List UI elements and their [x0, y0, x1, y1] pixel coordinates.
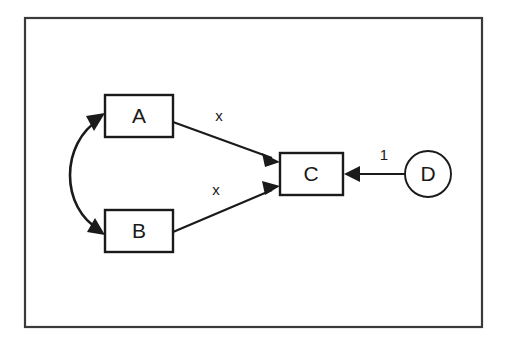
edge-a-b-arrowhead-bottom [87, 218, 105, 235]
edge-d-to-c [344, 166, 405, 182]
node-a[interactable]: A [105, 95, 173, 137]
edge-a-b-bidirectional [70, 113, 105, 235]
edge-a-to-c [173, 122, 280, 167]
diagram-root: A B C D x x 1 [0, 0, 508, 340]
node-c-label: C [303, 162, 318, 185]
diagram-canvas: A B C D x x 1 [0, 0, 508, 340]
edge-b-to-c-arrowhead [262, 181, 280, 195]
node-b-label: B [132, 219, 146, 242]
edge-a-to-c-arrowhead [262, 153, 280, 167]
node-d[interactable]: D [405, 151, 451, 197]
edge-b-to-c [173, 181, 280, 232]
edge-d-to-c-label: 1 [380, 146, 388, 163]
node-d-label: D [420, 162, 435, 185]
edge-d-to-c-arrowhead [344, 166, 360, 182]
node-c[interactable]: C [280, 153, 343, 195]
edge-b-to-c-label: x [212, 181, 220, 198]
node-a-label: A [132, 104, 146, 127]
edge-a-b-curve [70, 119, 100, 230]
node-b[interactable]: B [105, 210, 173, 252]
edge-a-to-c-label: x [215, 107, 223, 124]
edge-b-to-c-line [173, 190, 272, 232]
edge-a-to-c-line [173, 122, 272, 158]
